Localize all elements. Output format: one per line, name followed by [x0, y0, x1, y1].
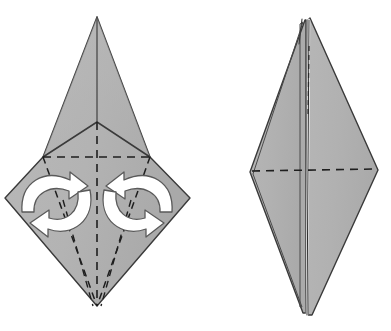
- origami-diagram-canvas: [0, 0, 391, 331]
